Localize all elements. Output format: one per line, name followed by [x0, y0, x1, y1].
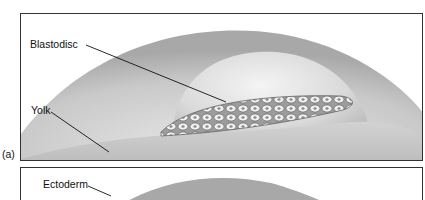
panel-a: Blastodisc Yolk — [20, 13, 423, 161]
panel-b: Ectoderm — [20, 167, 423, 200]
ectoderm-shell — [116, 178, 336, 200]
panel-letter-a: (a) — [2, 148, 15, 160]
yolk-label: Yolk — [31, 104, 50, 116]
blastodisc-label: Blastodisc — [30, 38, 78, 50]
blastodisc-illustration — [21, 14, 423, 161]
ectoderm-label: Ectoderm — [43, 178, 88, 190]
ectoderm-leader-line — [88, 186, 111, 196]
